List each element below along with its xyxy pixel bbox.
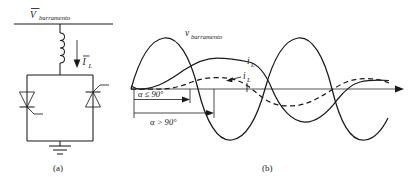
- thyristor-right: [86, 85, 110, 107]
- line-current-arrow: [74, 40, 81, 68]
- voltage-label-subscript: barramento: [191, 33, 223, 40]
- current-dashed-symbol: i: [243, 71, 246, 81]
- current-solid-label: i L: [247, 56, 255, 68]
- bus-voltage-symbol: V: [30, 10, 37, 20]
- line-current-label: I L: [82, 56, 93, 69]
- voltage-label-symbol: v: [185, 28, 190, 38]
- bus-voltage-label: V barramento: [30, 9, 71, 22]
- voltage-curve-label: v barramento: [185, 28, 223, 40]
- panel-label-a: (a): [53, 163, 63, 173]
- waveform-panel: v barramento i L i L α ≤ 90°: [131, 28, 404, 173]
- current-arrow-head: [74, 60, 81, 69]
- alpha-gt-90-arrow-head: [206, 110, 214, 116]
- alpha-le-90-text: α ≤ 90°: [138, 89, 164, 99]
- time-axis: [131, 85, 404, 92]
- current-dashed-subscript: L: [246, 76, 251, 83]
- bus-voltage-subscript: barramento: [39, 14, 71, 21]
- ground-symbol: [49, 141, 71, 154]
- thyristor-right-gate-lead: [93, 85, 100, 92]
- line-current-subscript: L: [88, 62, 93, 69]
- inductor-coil: [60, 33, 65, 63]
- alpha-gt-90-text: α > 90°: [150, 117, 177, 127]
- current-solid-subscript: L: [250, 61, 255, 68]
- current-dashed-label: i L: [226, 71, 251, 83]
- current-solid-symbol: i: [247, 56, 250, 66]
- alpha-le-90-arrow-head: [182, 97, 190, 103]
- time-axis-arrow: [395, 85, 404, 92]
- thyristor-left-gate-lead: [27, 107, 34, 114]
- reactor-current-dashed-curve: [131, 78, 389, 107]
- circuit-panel: V barramento I L: [14, 9, 113, 174]
- panel-label-b: (b): [262, 163, 273, 173]
- reactor-current-solid-curve: [131, 58, 389, 122]
- line-current-symbol: I: [82, 57, 87, 67]
- figure-tcr: V barramento I L: [0, 0, 411, 177]
- thyristor-left: [20, 92, 44, 114]
- alpha-le-90-dimension: α ≤ 90°: [134, 89, 190, 104]
